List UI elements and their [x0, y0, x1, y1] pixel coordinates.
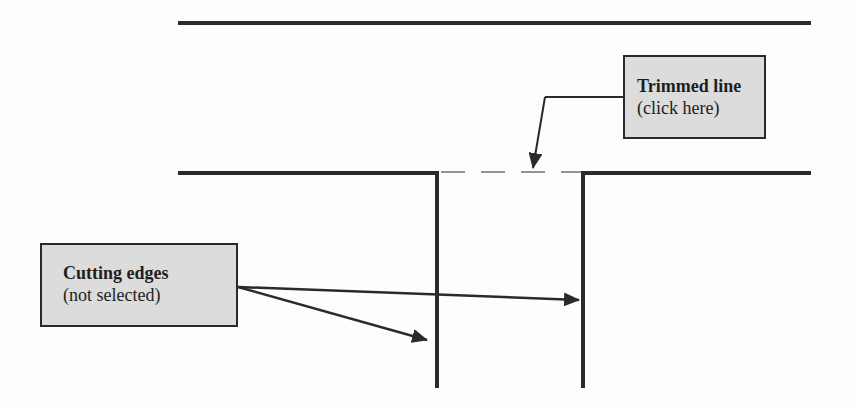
cutting-edges-leader-arrows — [238, 287, 579, 340]
right-cutting-edge[interactable] — [583, 171, 811, 388]
arrow-to-right-edge — [238, 287, 579, 300]
cutting-edges-callout-subtitle: (not selected) — [63, 284, 236, 306]
cutting-edges-callout: Cutting edges (not selected) — [40, 243, 238, 327]
trimmed-line-leader-arrow — [533, 97, 623, 168]
trimmed-line-callout: Trimmed line (click here) — [623, 55, 766, 139]
trimmed-line-callout-subtitle: (click here) — [637, 97, 764, 119]
cutting-edges-callout-title: Cutting edges — [63, 262, 236, 284]
trimmed-line-callout-title: Trimmed line — [637, 75, 764, 97]
arrow-to-left-edge — [238, 287, 427, 340]
